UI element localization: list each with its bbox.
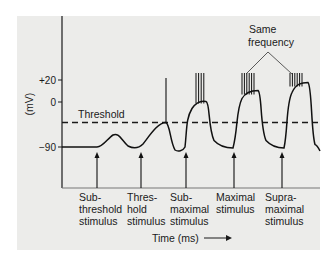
x-axis-label: Time (ms) xyxy=(152,232,199,244)
stimulus-label-line: Maximal xyxy=(216,191,255,203)
stimulus-label-line: maximal xyxy=(170,203,209,215)
stimulus-arrowhead xyxy=(232,152,237,158)
stimulus-arrowhead xyxy=(95,152,100,158)
stimulus-arrowhead xyxy=(139,152,144,158)
stimulus-label-line: Thres- xyxy=(127,191,158,203)
stimulus-label-line: stimulus xyxy=(265,215,304,227)
stimulus-label-line: Sub- xyxy=(170,191,193,203)
stimulus-label-line: Supra- xyxy=(265,191,297,203)
time-arrow xyxy=(204,235,232,241)
stimulus-label-line: stimulus xyxy=(127,215,166,227)
annotation-pointer-left xyxy=(246,52,268,74)
y-tick-label: −90 xyxy=(39,142,56,153)
threshold-label: Threshold xyxy=(78,108,125,120)
annotation-line-2: frequency xyxy=(248,36,295,48)
y-tick-label: 0 xyxy=(50,97,56,108)
stimulus-label-line: threshold xyxy=(79,203,122,215)
annotation-pointer-right xyxy=(268,52,292,74)
stimulus-label-line: hold xyxy=(127,203,147,215)
y-axis-label: (mV) xyxy=(23,93,35,116)
stimulus-label-line: Sub- xyxy=(79,191,102,203)
stimulus-arrowhead xyxy=(184,152,189,158)
stimulus-label-line: stimulus xyxy=(79,215,118,227)
annotation-line-1: Same xyxy=(249,23,277,35)
stimulus-arrowhead xyxy=(280,152,285,158)
y-tick-label: +20 xyxy=(39,75,56,86)
stimulus-label-line: maximal xyxy=(265,203,304,215)
stimulus-label-line: stimulus xyxy=(216,203,255,215)
stimulus-label-line: stimulus xyxy=(170,215,209,227)
action-potential-chart: (mV) +200−90 Threshold Sub-thresholdstim… xyxy=(0,0,334,261)
